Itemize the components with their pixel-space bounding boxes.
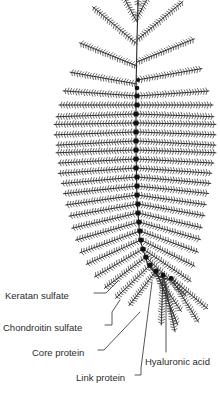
link-protein-node <box>135 193 140 198</box>
link-protein-node <box>135 86 140 91</box>
link-protein-node <box>138 229 143 234</box>
link-protein-node <box>134 157 139 162</box>
link-protein-node <box>135 184 140 189</box>
label-text-keratan-sulfate: Keratan sulfate <box>5 290 69 301</box>
label-text-core-protein: Core protein <box>32 347 84 358</box>
link-protein-node <box>147 262 152 267</box>
label-text-link-protein: Link protein <box>76 372 125 383</box>
link-protein-node <box>134 121 139 126</box>
link-protein-node <box>153 268 158 273</box>
link-protein-node <box>161 273 166 278</box>
link-protein-node <box>135 103 140 108</box>
link-protein-node <box>134 148 139 153</box>
link-protein-node <box>136 202 141 207</box>
link-protein-node <box>135 94 140 99</box>
link-protein-node <box>134 130 139 135</box>
link-protein-node <box>134 166 139 171</box>
link-protein-node <box>141 247 146 252</box>
link-protein-node <box>134 112 139 117</box>
link-protein-node <box>134 139 139 144</box>
link-protein-node <box>137 220 142 225</box>
diagram-background <box>0 0 220 395</box>
link-protein-node <box>169 276 173 280</box>
label-text-hyaluronic-acid: Hyaluronic acid <box>145 356 210 367</box>
label-text-chondroitin-sulfate: Chondroitin sulfate <box>3 322 82 333</box>
link-protein-node <box>135 175 140 180</box>
proteoglycan-diagram: Keratan sulfateChondroitin sulfateCore p… <box>0 0 220 395</box>
link-protein-node <box>136 211 141 216</box>
link-protein-node <box>139 238 144 243</box>
diagram-canvas: Keratan sulfateChondroitin sulfateCore p… <box>0 0 220 395</box>
link-protein-node <box>136 78 140 82</box>
link-protein-node <box>144 255 149 260</box>
